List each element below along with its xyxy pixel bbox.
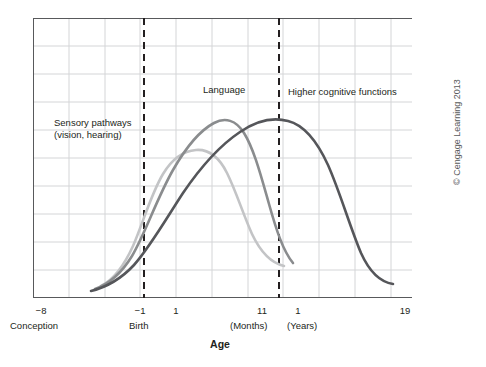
developmental-synapse-chart: Sensory pathways (vision, hearing) Langu…	[0, 0, 486, 367]
sensory-label-line-1: Sensory pathways	[54, 117, 132, 129]
stage-label-months: (Months)	[230, 320, 267, 331]
stage-label-conception: Conception	[10, 320, 58, 331]
plot-area	[33, 18, 412, 298]
stage-label-birth: Birth	[129, 320, 149, 331]
xtick-label-1-years: 1	[295, 305, 300, 316]
xtick-label-minus1: −1	[135, 305, 146, 316]
xtick-label-19: 19	[400, 305, 411, 316]
x-axis-title: Age	[0, 338, 440, 350]
curve-label-sensory-pathways: Sensory pathways (vision, hearing)	[54, 117, 132, 141]
curve-label-language: Language	[203, 84, 245, 96]
stage-label-years: (Years)	[287, 320, 317, 331]
curve-label-higher-cognitive-functions: Higher cognitive functions	[288, 86, 397, 98]
plot-svg	[33, 18, 412, 298]
xtick-label-minus8: −8	[36, 305, 47, 316]
copyright-notice: © Cengage Learning 2013	[452, 79, 462, 185]
curve-sensory-pathways	[101, 150, 284, 286]
curve-higher-cognitive	[91, 119, 393, 291]
xtick-label-1-months: 1	[173, 305, 178, 316]
xtick-label-11-months: 11	[257, 305, 267, 316]
sensory-label-line-2: (vision, hearing)	[54, 129, 132, 141]
